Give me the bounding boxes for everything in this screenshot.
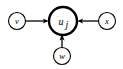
node-v-label: v — [15, 16, 19, 26]
node-x-label: x — [104, 16, 109, 26]
edge-w-to-uj — [59, 35, 64, 48]
graph-canvas: v u j x w — [0, 0, 123, 69]
edge-v-to-uj — [26, 18, 49, 23]
edge-x-to-uj — [77, 18, 98, 23]
node-uj-label: u — [59, 16, 64, 27]
node-uj[interactable]: u j — [49, 7, 77, 35]
node-w-label: w — [59, 51, 65, 61]
node-x[interactable]: x — [99, 13, 116, 30]
graph-diagram: v u j x w — [0, 0, 123, 69]
node-v[interactable]: v — [9, 13, 26, 30]
node-w[interactable]: w — [54, 48, 71, 65]
